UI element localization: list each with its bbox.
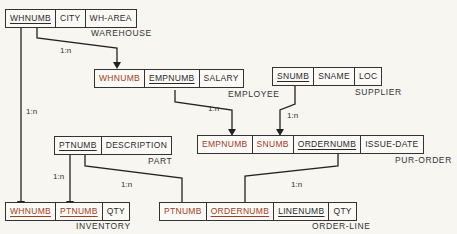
field-city: CITY: [56, 10, 86, 27]
field-loc: LOC: [355, 68, 381, 85]
rel-label-part-inventory: 1:n: [53, 172, 64, 181]
table-name-order-line: ORDER-LINE: [312, 221, 370, 231]
relationship-lines: [0, 0, 457, 234]
field-ordernumb-fk: ORDERNUMB: [207, 203, 274, 220]
field-issue-date: ISSUE-DATE: [361, 136, 422, 153]
field-ptnumb-fk: PTNUMB: [160, 203, 207, 220]
field-wh-area: WH-AREA: [86, 10, 136, 27]
table-name-part: PART: [148, 156, 172, 166]
table-name-inventory: INVENTORY: [76, 221, 131, 231]
field-sname: SNAME: [314, 68, 355, 85]
table-warehouse: WHNUMB CITY WH-AREA: [5, 9, 137, 28]
table-name-employee: EMPLOYEE: [228, 89, 280, 99]
field-empnumb: EMPNUMB: [145, 70, 200, 87]
field-description: DESCRIPTION: [102, 137, 171, 154]
table-pur-order: EMPNUMB SNUMB ORDERNUMB ISSUE-DATE: [197, 135, 424, 154]
field-whnumb-fk: WHNUMB: [6, 203, 56, 220]
field-ptnumb: PTNUMB: [55, 137, 102, 154]
rel-label-employee-pur-order: 1:n: [208, 104, 219, 113]
table-inventory: WHNUMB PTNUMB QTY: [5, 202, 130, 221]
table-name-pur-order: PUR-ORDER: [395, 155, 452, 165]
field-ordernumb: ORDERNUMB: [294, 136, 361, 153]
field-linenumb: LINENUMB: [274, 203, 329, 220]
field-snumb-fk: SNUMB: [253, 136, 294, 153]
rel-label-warehouse-employee: 1:n: [60, 46, 71, 55]
field-salary: SALARY: [200, 70, 243, 87]
table-name-warehouse: WAREHOUSE: [91, 28, 152, 38]
table-employee: WHNUMB EMPNUMB SALARY: [94, 69, 244, 88]
field-qty: QTY: [103, 203, 129, 220]
rel-label-pur-order-order-line: 1:n: [291, 180, 302, 189]
rel-label-warehouse-inventory: 1:n: [26, 107, 37, 116]
field-empnumb-fk: EMPNUMB: [198, 136, 253, 153]
field-snumb: SNUMB: [273, 68, 314, 85]
field-whnumb: WHNUMB: [6, 10, 56, 27]
table-supplier: SNUMB SNAME LOC: [272, 67, 382, 86]
table-name-supplier: SUPPLIER: [355, 87, 402, 97]
rel-label-part-order-line: 1:n: [121, 180, 132, 189]
field-ptnumb-fk: PTNUMB: [56, 203, 103, 220]
field-whnumb-fk: WHNUMB: [95, 70, 145, 87]
table-order-line: PTNUMB ORDERNUMB LINENUMB QTY: [159, 202, 357, 221]
table-part: PTNUMB DESCRIPTION: [54, 136, 172, 155]
field-qty: QTY: [329, 203, 355, 220]
rel-label-supplier-pur-order: 1:n: [287, 111, 298, 120]
